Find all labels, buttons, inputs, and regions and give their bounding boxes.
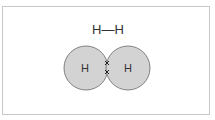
covalent-bond-diagram: H H — [0, 0, 215, 120]
atom-left-label: H — [81, 62, 89, 74]
atom-right-label: H — [124, 62, 132, 74]
